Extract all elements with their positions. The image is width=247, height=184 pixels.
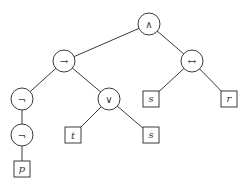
node-label: s	[148, 129, 153, 140]
node-neg-2: ¬	[11, 124, 33, 146]
node-label: p	[19, 163, 26, 174]
formula-tree: ∧ → ↔ ¬ ∨ s r ¬ t s p	[0, 0, 247, 184]
node-label: ↔	[188, 56, 197, 67]
node-label: ∨	[105, 94, 112, 105]
leaf-t: t	[65, 127, 81, 143]
node-label: →	[60, 56, 69, 67]
leaf-p: p	[14, 161, 30, 177]
node-or: ∨	[98, 88, 120, 110]
node-label: ¬	[18, 94, 26, 105]
leaf-s-1: s	[143, 91, 159, 107]
leaf-r: r	[221, 91, 237, 107]
node-label: s	[148, 93, 153, 104]
node-implies: →	[53, 50, 75, 72]
node-neg-1: ¬	[11, 88, 33, 110]
node-iff: ↔	[181, 50, 203, 72]
node-label: ¬	[18, 130, 26, 141]
leaf-s-2: s	[143, 127, 159, 143]
edge-and-imp	[64, 24, 149, 61]
node-label: ∧	[145, 19, 152, 30]
edges	[22, 24, 229, 169]
node-and: ∧	[138, 13, 160, 35]
